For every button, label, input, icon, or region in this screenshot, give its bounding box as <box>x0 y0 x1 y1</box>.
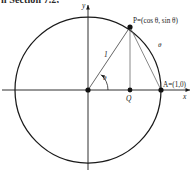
figure-root: n Section 7.2, P=(cos θ, sin θ) A=(1,0) … <box>0 0 196 172</box>
point-label-Q: Q <box>126 95 131 103</box>
segment-chord-PA <box>130 27 161 90</box>
segment-radius-OP <box>88 27 130 90</box>
x-axis-label: x <box>183 93 186 101</box>
y-axis-arrowhead <box>86 5 90 10</box>
radius-length-label: 1 <box>104 51 108 59</box>
point-Q-dot <box>128 88 133 93</box>
y-axis-label: y <box>82 2 85 10</box>
point-label-P: P=(cos θ, sin θ) <box>133 18 178 25</box>
angle-theta-label-origin: θ <box>103 75 106 82</box>
point-origin-dot <box>85 87 90 92</box>
angle-theta-label-arc: θ <box>158 42 161 49</box>
point-P-dot <box>127 24 132 29</box>
x-axis-arrowhead <box>186 88 191 92</box>
point-label-A: A=(1,0) <box>163 82 186 89</box>
